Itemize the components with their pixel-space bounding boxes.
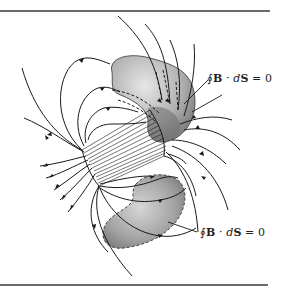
field-lines-illustration — [0, 0, 284, 290]
lower-closed-surface — [103, 175, 185, 249]
upper-closed-surface — [111, 56, 195, 143]
lower-flux-label: ∮B · dS = 0 — [200, 226, 265, 239]
magnetic-flux-diagram: ∮B · dS = 0 ∮B · dS = 0 — [0, 0, 284, 290]
upper-flux-label: ∮B · dS = 0 — [207, 72, 272, 85]
